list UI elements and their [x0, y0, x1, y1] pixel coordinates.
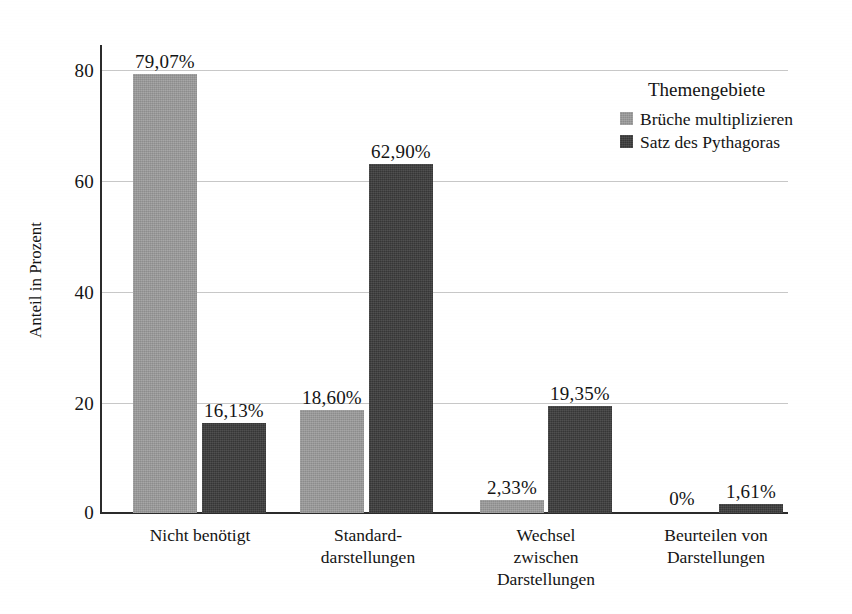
legend-swatch-icon-pythagoras [620, 135, 633, 148]
bar-standarddarstellungen-bruche[interactable] [300, 410, 364, 513]
data-label-wechsel-pythagoras: 19,35% [520, 384, 640, 404]
bar-nicht-benoetigt-bruche[interactable] [133, 74, 197, 513]
x-axis-label-standarddarstellungen: Standard- darstellungen [278, 524, 458, 568]
x-axis-label-nicht-benoetigt: Nicht benötigt [110, 524, 290, 546]
legend-swatch-icon-bruche [620, 112, 633, 125]
x-axis-label-wechsel-line1: Wechsel [456, 524, 636, 546]
legend-title: Themengebiete [648, 78, 850, 102]
legend-item-satz-des-pythagoras[interactable]: Satz des Pythagoras [620, 130, 850, 153]
legend-item-bruche-multiplizieren[interactable]: Brüche multiplizieren [620, 107, 850, 130]
x-axis-label-standarddarstellungen-line2: darstellungen [278, 546, 458, 568]
x-axis-label-standarddarstellungen-line1: Standard- [278, 524, 458, 546]
bar-wechsel-bruche[interactable] [480, 500, 544, 513]
x-axis-label-wechsel: Wechsel zwischen Darstellungen [456, 524, 636, 590]
bar-chart: Anteil in Prozent 80 60 40 20 0 79,07% 1… [0, 0, 852, 614]
bars-layer [0, 0, 852, 513]
x-axis-label-beurteilen-line1: Beurteilen von [626, 524, 806, 546]
legend: Themengebiete Brüche multiplizieren Satz… [620, 78, 850, 153]
data-label-standarddarstellungen-bruche: 18,60% [272, 388, 392, 408]
x-axis-label-wechsel-line2: zwischen [456, 546, 636, 568]
data-label-nicht-benoetigt-bruche: 79,07% [105, 52, 225, 72]
data-label-beurteilen-pythagoras: 1,61% [691, 482, 811, 502]
x-axis-label-beurteilen-line2: Darstellungen [626, 546, 806, 568]
bar-standarddarstellungen-pythagoras[interactable] [369, 164, 433, 513]
legend-label-pythagoras: Satz des Pythagoras [640, 132, 780, 152]
x-axis-label-wechsel-line3: Darstellungen [456, 568, 636, 590]
data-label-standarddarstellungen-pythagoras: 62,90% [341, 142, 461, 162]
x-axis-label-nicht-benoetigt-line1: Nicht benötigt [110, 524, 290, 546]
bar-nicht-benoetigt-pythagoras[interactable] [202, 423, 266, 513]
data-label-wechsel-bruche: 2,33% [457, 478, 567, 498]
x-axis-label-beurteilen: Beurteilen von Darstellungen [626, 524, 806, 568]
legend-label-bruche: Brüche multiplizieren [640, 109, 793, 129]
